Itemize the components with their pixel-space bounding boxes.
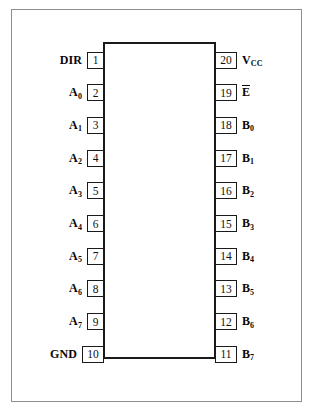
pin-signal-label: B4 [242, 249, 254, 264]
pin-signal-label: A1 [69, 118, 82, 133]
pinout-diagram-page: DIR1A02A13A24A35A46A57A68A79GND1020VCC19… [0, 0, 315, 411]
pin-row: 18B0 [216, 116, 315, 134]
pin-row: 13B5 [216, 280, 315, 298]
signal-name-text: B [242, 183, 250, 197]
pin-number-box: 2 [87, 84, 104, 101]
pin-signal-label: A6 [69, 281, 82, 296]
pin-signal-label: DIR [60, 53, 82, 68]
signal-name-text: A [69, 183, 78, 197]
pin-row: DIR1 [0, 51, 103, 69]
signal-subscript: 4 [78, 223, 82, 232]
signal-subscript: 7 [250, 353, 254, 362]
pin-signal-label: A4 [69, 216, 82, 231]
pin-row: GND10 [0, 345, 103, 363]
signal-name-text: V [242, 53, 251, 67]
pin-number-box: 3 [87, 117, 104, 134]
signal-name-text: B [242, 281, 250, 295]
pin-number-box: 4 [87, 150, 104, 167]
pin-row: A24 [0, 149, 103, 167]
signal-name-text: A [69, 216, 78, 230]
pin-row: 14B4 [216, 247, 315, 265]
pin-signal-label: B7 [242, 347, 254, 362]
pin-number-box: 20 [215, 52, 237, 69]
pin-number-box: 8 [87, 280, 104, 297]
pin-row: 19E [216, 84, 315, 102]
signal-name-text: B [242, 151, 250, 165]
pin-row: 15B3 [216, 215, 315, 233]
pin-number-box: 15 [215, 215, 237, 232]
signal-subscript: 1 [78, 124, 82, 133]
pin-number-box: 10 [82, 346, 104, 363]
signal-subscript: 2 [78, 157, 82, 166]
signal-name-text: GND [50, 347, 77, 361]
pin-number-box: 14 [215, 248, 237, 265]
signal-subscript: 5 [250, 288, 254, 297]
pin-number-box: 19 [215, 84, 237, 101]
pin-number-box: 12 [215, 313, 237, 330]
pin-signal-label: B0 [242, 118, 254, 133]
active-low-overbar: E [242, 85, 250, 99]
signal-subscript: 1 [250, 157, 254, 166]
pin-row: A68 [0, 280, 103, 298]
signal-subscript: 4 [250, 255, 254, 264]
pin-number-box: 1 [87, 52, 104, 69]
pin-signal-label: E [242, 85, 250, 100]
signal-name-text: A [69, 85, 78, 99]
pin-signal-label: B5 [242, 281, 254, 296]
pin-number-box: 11 [215, 346, 237, 363]
signal-name-text: B [242, 347, 250, 361]
pin-number-box: 17 [215, 150, 237, 167]
signal-name-text: A [69, 281, 78, 295]
pin-signal-label: VCC [242, 53, 263, 68]
pin-row: A13 [0, 116, 103, 134]
pin-signal-label: A2 [69, 151, 82, 166]
signal-name-text: B [242, 249, 250, 263]
signal-name-text: A [69, 151, 78, 165]
signal-subscript: 3 [250, 223, 254, 232]
signal-name-text: A [69, 249, 78, 263]
signal-name-text: B [242, 118, 250, 132]
signal-name-text: B [242, 216, 250, 230]
signal-subscript: 7 [78, 321, 82, 330]
pin-signal-label: B3 [242, 216, 254, 231]
signal-subscript: 3 [78, 190, 82, 199]
pin-signal-label: A5 [69, 249, 82, 264]
pin-row: 20VCC [216, 51, 315, 69]
pin-number-box: 7 [87, 248, 104, 265]
pin-row: A02 [0, 84, 103, 102]
pin-number-box: 9 [87, 313, 104, 330]
pin-row: A57 [0, 247, 103, 265]
signal-name-text: A [69, 118, 78, 132]
pin-signal-label: GND [50, 347, 77, 362]
signal-subscript: 6 [250, 321, 254, 330]
signal-subscript: 5 [78, 255, 82, 264]
pin-number-box: 16 [215, 182, 237, 199]
signal-name-text: DIR [60, 53, 82, 67]
pin-row: A35 [0, 182, 103, 200]
pin-row: 16B2 [216, 182, 315, 200]
signal-subscript: 0 [78, 92, 82, 101]
signal-subscript: CC [251, 59, 263, 68]
pin-signal-label: B6 [242, 314, 254, 329]
pin-signal-label: A7 [69, 314, 82, 329]
pin-row: 11B7 [216, 345, 315, 363]
pin-number-box: 13 [215, 280, 237, 297]
pin-row: 17B1 [216, 149, 315, 167]
pin-signal-label: A0 [69, 85, 82, 100]
signal-name-text: B [242, 314, 250, 328]
pin-signal-label: A3 [69, 183, 82, 198]
pin-number-box: 6 [87, 215, 104, 232]
pin-row: A79 [0, 313, 103, 331]
pin-number-box: 18 [215, 117, 237, 134]
pin-row: 12B6 [216, 313, 315, 331]
signal-name-text: A [69, 314, 78, 328]
pin-number-box: 5 [87, 182, 104, 199]
signal-subscript: 0 [250, 124, 254, 133]
pin-signal-label: B2 [242, 183, 254, 198]
ic-body-outline [103, 42, 216, 359]
pin-row: A46 [0, 215, 103, 233]
signal-subscript: 6 [78, 288, 82, 297]
pin-signal-label: B1 [242, 151, 254, 166]
signal-subscript: 2 [250, 190, 254, 199]
